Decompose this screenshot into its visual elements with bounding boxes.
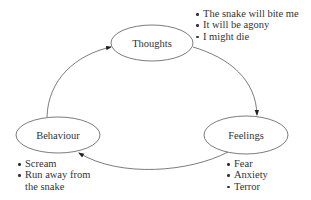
arrow-feelings-to-behaviour [79, 152, 228, 169]
feelings-item: Fear [227, 158, 268, 169]
arrow-thoughts-to-feelings [193, 47, 257, 115]
thoughts-label: Thoughts [132, 38, 172, 49]
node-thoughts: Thoughts [111, 25, 193, 61]
feelings-item: Anxiety [227, 169, 268, 180]
behaviour-item: Scream [18, 158, 90, 169]
behaviour-item: Run away from [18, 169, 90, 180]
thoughts-list: The snake will bite me It will be agony … [196, 8, 299, 42]
node-feelings: Feelings [204, 116, 288, 154]
thoughts-item: I might die [196, 31, 299, 42]
arrow-behaviour-to-thoughts [47, 47, 111, 117]
feelings-item: Terror [227, 181, 268, 192]
behaviour-label: Behaviour [36, 130, 80, 141]
behaviour-list: Scream Run away from the snake [18, 158, 90, 192]
thoughts-item: The snake will bite me [196, 8, 299, 19]
behaviour-item-continuation: the snake [18, 181, 90, 192]
feelings-label: Feelings [228, 130, 264, 141]
feelings-list: Fear Anxiety Terror [227, 158, 268, 192]
node-behaviour: Behaviour [16, 117, 100, 153]
thoughts-item: It will be agony [196, 19, 299, 30]
